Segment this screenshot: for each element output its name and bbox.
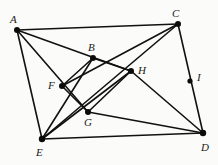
diagram-svg (0, 0, 218, 165)
edge-G-H (88, 71, 131, 112)
edge-F-G (62, 86, 88, 112)
diagram-canvas: ABCDEFGHI (0, 0, 218, 165)
vertex-label-e: E (36, 147, 43, 158)
vertex-label-i: I (197, 72, 201, 83)
edge-E-H (42, 71, 131, 139)
edge-A-E (17, 30, 42, 139)
edge-A-C (17, 24, 178, 30)
edge-E-D (42, 133, 203, 139)
vertex-dot-a (14, 27, 20, 33)
vertex-dot-d (200, 130, 206, 136)
vertex-dot-c (175, 21, 181, 27)
edges-group (17, 24, 203, 139)
edge-D-G (88, 112, 203, 133)
vertex-label-a: A (10, 14, 17, 25)
vertex-label-c: C (172, 8, 179, 19)
vertex-dot-b (90, 55, 96, 61)
vertex-dot-g (85, 109, 91, 115)
vertex-label-b: B (88, 42, 95, 53)
vertex-dot-f (59, 83, 65, 89)
vertex-dot-e (39, 136, 45, 142)
vertex-dot-h (128, 68, 134, 74)
edge-C-F (62, 24, 178, 86)
vertex-label-d: D (201, 142, 209, 153)
vertex-label-f: F (48, 80, 55, 91)
vertex-dot-i (187, 78, 192, 83)
vertex-label-h: H (138, 65, 146, 76)
vertex-label-g: G (84, 117, 92, 128)
